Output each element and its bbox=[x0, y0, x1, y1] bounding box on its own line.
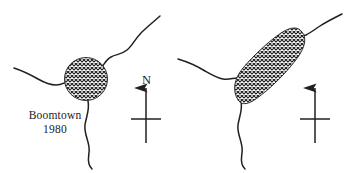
north-arrow-2004 bbox=[300, 88, 330, 143]
map-panel-2004: N Boomtown 2004 bbox=[174, 0, 348, 173]
map-panel-1980: N Boomtown 1980 bbox=[0, 0, 174, 173]
urban-extent-2004 bbox=[235, 28, 305, 104]
river-northeast-2004 bbox=[300, 14, 342, 36]
river-west-2004 bbox=[178, 59, 244, 80]
urban-extent-1980 bbox=[65, 58, 108, 101]
caption-year-1980: 1980 bbox=[18, 123, 92, 137]
map-drawing-2004 bbox=[174, 0, 348, 173]
map-caption-1980: Boomtown 1980 bbox=[18, 109, 92, 136]
caption-city-name-1980: Boomtown bbox=[18, 109, 92, 123]
compass-north-label-1980: N bbox=[142, 74, 151, 87]
north-arrow-1980 bbox=[131, 88, 161, 143]
river-south-2004 bbox=[238, 101, 245, 169]
boomtown-growth-figure: N Boomtown 1980 bbox=[0, 0, 348, 173]
